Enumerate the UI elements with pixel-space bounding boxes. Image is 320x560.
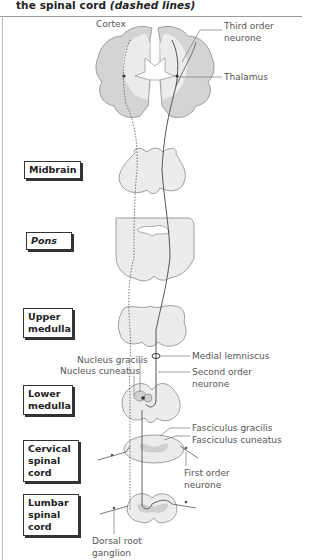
lumbar-left-ganglion	[113, 507, 116, 510]
cervical-left-ganglion	[111, 454, 114, 457]
lower-medulla-section	[122, 384, 180, 423]
fasciculus-gracilis-label: Fasciculus gracilis	[192, 422, 272, 434]
level-label-lower-medulla: Lower medulla	[23, 385, 73, 415]
medial-lemniscus-label: Medial lemniscus	[192, 350, 269, 362]
midbrain-section	[119, 148, 185, 193]
nucleus-dot	[141, 396, 145, 400]
second-order-neurone-label: Second order neurone	[192, 366, 264, 390]
dorsal-root-ganglion-label: Dorsal root ganglion	[92, 535, 162, 559]
level-label-midbrain: Midbrain	[24, 161, 81, 179]
level-label-cervical-spinal-cord: Cervical spinal cord	[23, 440, 79, 482]
level-label-upper-medulla: Upper medulla	[23, 308, 73, 338]
lumbar-right-ganglion	[185, 501, 188, 504]
nucleus-cuneatus-label: Nucleus cuneatus	[60, 365, 140, 377]
first-order-neurone-label: First order neurone	[184, 467, 248, 491]
brain-coronal-section	[96, 26, 214, 117]
upper-medulla-section	[118, 306, 186, 347]
third-order-neurone-label: Third order neurone	[224, 20, 284, 44]
cervical-right-ganglion	[185, 447, 188, 450]
fasciculus-cuneatus-label: Fasciculus cuneatus	[192, 434, 282, 446]
cortex-label: Cortex	[96, 18, 126, 30]
level-label-pons: Pons	[26, 232, 72, 250]
thalamus-label: Thalamus	[224, 71, 268, 83]
level-label-lumbar-spinal-cord: Lumbar spinal cord	[23, 494, 79, 536]
nucleus-cuneatus-shape	[144, 394, 152, 402]
thalamus-dot-left	[122, 74, 125, 77]
